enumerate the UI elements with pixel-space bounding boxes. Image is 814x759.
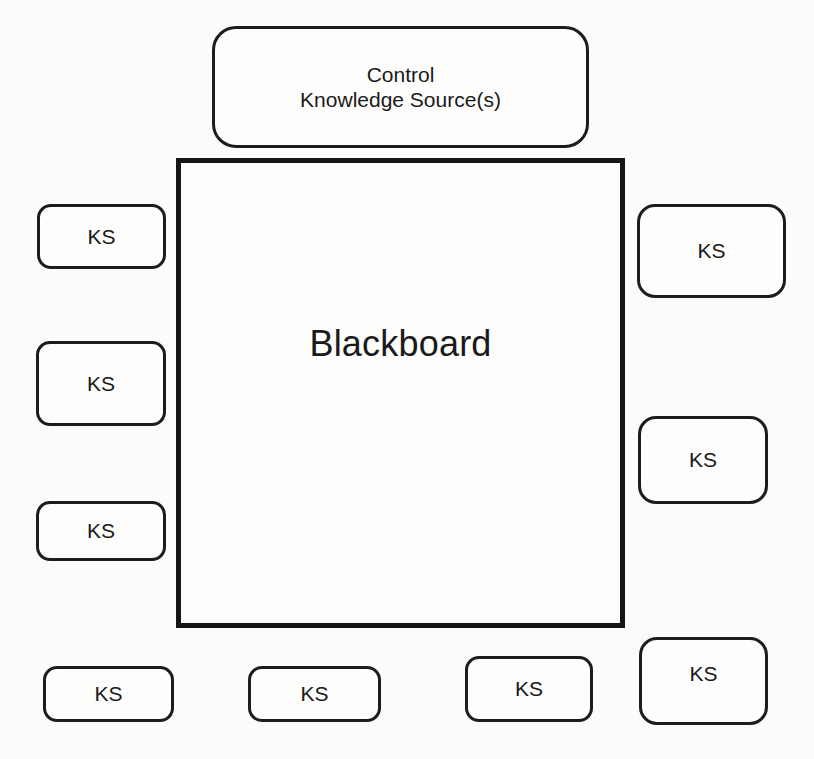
control-label-line1: Control — [367, 62, 435, 87]
ks-box-bottom-2: KS — [248, 666, 381, 722]
control-label-line2: Knowledge Source(s) — [300, 87, 501, 112]
ks-box-right-2: KS — [638, 416, 768, 504]
blackboard-architecture-diagram: Control Knowledge Source(s) Blackboard K… — [0, 0, 814, 759]
ks-label: KS — [300, 682, 328, 706]
ks-box-left-1: KS — [37, 204, 166, 269]
ks-label: KS — [515, 677, 543, 701]
ks-box-bottom-3: KS — [465, 656, 593, 722]
ks-label: KS — [689, 448, 717, 472]
ks-label: KS — [87, 519, 115, 543]
ks-label: KS — [94, 682, 122, 706]
blackboard-box: Blackboard — [176, 158, 625, 628]
ks-box-left-3: KS — [36, 501, 166, 561]
ks-box-bottom-1: KS — [43, 666, 174, 722]
control-knowledge-source-box: Control Knowledge Source(s) — [212, 26, 589, 148]
ks-label: KS — [87, 372, 115, 396]
ks-box-right-1: KS — [637, 204, 786, 298]
ks-label: KS — [697, 239, 725, 263]
blackboard-label: Blackboard — [181, 323, 620, 365]
ks-box-left-2: KS — [36, 341, 166, 426]
ks-label: KS — [689, 662, 717, 686]
ks-label: KS — [87, 225, 115, 249]
ks-box-right-3: KS — [639, 637, 768, 725]
